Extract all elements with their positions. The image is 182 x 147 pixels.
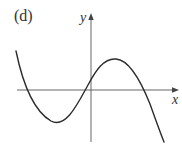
cubic-curve xyxy=(16,51,164,142)
panel-label: (d) xyxy=(14,7,33,25)
x-axis xyxy=(17,87,179,92)
cubic-graph-figure: (d) y x xyxy=(0,0,182,147)
y-axis-arrow-icon xyxy=(88,13,93,20)
x-axis-label: x xyxy=(171,92,179,107)
y-axis-label: y xyxy=(78,10,87,25)
